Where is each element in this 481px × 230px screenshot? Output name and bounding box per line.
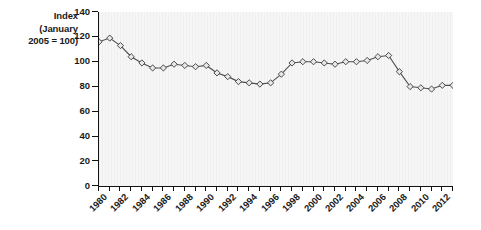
x-tick-mark: [377, 186, 378, 191]
x-tick-mark: [398, 186, 399, 191]
y-tick-label: 40: [50, 130, 90, 141]
x-tick-mark: [109, 186, 110, 191]
x-tick-mark: [302, 186, 303, 191]
data-point-marker: [439, 82, 445, 88]
line-series-svg: [99, 12, 453, 186]
x-tick-mark: [323, 186, 324, 191]
x-tick-mark: [162, 186, 163, 191]
x-tick-mark: [216, 186, 217, 191]
x-tick-mark: [388, 186, 389, 191]
y-tick-mark: [92, 11, 98, 12]
data-point-marker: [310, 59, 316, 65]
x-tick-mark: [355, 186, 356, 191]
series-line: [99, 38, 453, 89]
data-point-marker: [192, 64, 198, 70]
data-point-marker: [375, 54, 381, 60]
data-point-marker: [246, 80, 252, 86]
x-tick-mark: [334, 186, 335, 191]
x-tick-mark: [184, 186, 185, 191]
data-point-marker: [332, 61, 338, 67]
data-point-marker: [353, 59, 359, 65]
data-point-marker: [418, 85, 424, 91]
x-tick-mark: [431, 186, 432, 191]
y-tick-label: 80: [50, 80, 90, 91]
data-point-marker: [300, 59, 306, 65]
x-tick-mark: [270, 186, 271, 191]
x-tick-mark: [452, 186, 453, 191]
data-point-marker: [321, 60, 327, 66]
data-point-marker: [99, 39, 102, 45]
x-tick-mark: [173, 186, 174, 191]
x-tick-mark: [291, 186, 292, 191]
y-tick-mark: [92, 111, 98, 112]
x-tick-mark: [441, 186, 442, 191]
data-point-marker: [171, 61, 177, 67]
y-tick-label: 60: [50, 105, 90, 116]
data-point-marker: [343, 59, 349, 65]
y-tick-mark: [92, 86, 98, 87]
x-tick-mark: [152, 186, 153, 191]
x-tick-mark: [205, 186, 206, 191]
data-point-marker: [257, 81, 263, 87]
y-tick-mark: [92, 61, 98, 62]
x-tick-mark: [141, 186, 142, 191]
x-tick-mark: [237, 186, 238, 191]
plot-area: [98, 12, 453, 187]
x-tick-mark: [259, 186, 260, 191]
y-tick-label: 100: [50, 55, 90, 66]
y-tick-mark: [92, 136, 98, 137]
y-tick-label: 20: [50, 155, 90, 166]
y-tick-label: 120: [50, 30, 90, 41]
x-tick-mark: [119, 186, 120, 191]
data-point-marker: [364, 57, 370, 63]
data-point-marker: [235, 79, 241, 85]
y-tick-label: 0: [50, 180, 90, 191]
data-point-marker: [182, 62, 188, 68]
data-point-marker: [160, 65, 166, 71]
y-tick-mark: [92, 160, 98, 161]
chart-container: Index (January 2005 = 100) 0204060801001…: [0, 0, 481, 230]
data-point-marker: [150, 65, 156, 71]
data-point-marker: [428, 86, 434, 92]
x-tick-mark: [409, 186, 410, 191]
y-tick-label: 140: [50, 6, 90, 17]
x-tick-mark: [345, 186, 346, 191]
x-tick-mark: [227, 186, 228, 191]
x-tick-mark: [420, 186, 421, 191]
x-tick-mark: [195, 186, 196, 191]
data-point-marker: [386, 52, 392, 58]
data-point-marker: [450, 82, 453, 88]
x-tick-mark: [98, 186, 99, 191]
data-point-marker: [225, 74, 231, 80]
y-tick-mark: [92, 36, 98, 37]
x-tick-mark: [130, 186, 131, 191]
data-point-marker: [139, 60, 145, 66]
x-tick-mark: [280, 186, 281, 191]
x-tick-mark: [248, 186, 249, 191]
x-tick-mark: [366, 186, 367, 191]
x-tick-mark: [313, 186, 314, 191]
